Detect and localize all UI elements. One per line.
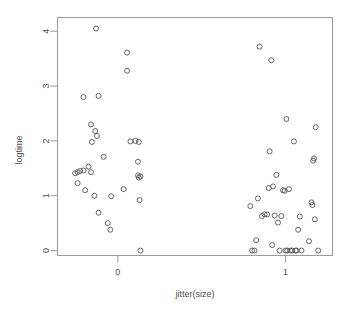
x-axis-title: jitter(size) — [174, 289, 214, 299]
x-tick-label: 1 — [283, 267, 288, 277]
x-tick-label: 0 — [115, 267, 120, 277]
y-tick-label: 3 — [41, 84, 51, 89]
figure-background — [0, 0, 357, 316]
y-tick-label: 1 — [41, 193, 51, 198]
plot-canvas: 01 01234 jitter(size) logtime — [0, 0, 357, 316]
y-tick-label: 4 — [41, 29, 51, 34]
scatter-plot-figure: 01 01234 jitter(size) logtime — [0, 0, 357, 316]
y-axis-title: logtime — [14, 135, 24, 164]
y-tick-label: 0 — [41, 248, 51, 253]
y-tick-label: 2 — [41, 138, 51, 143]
